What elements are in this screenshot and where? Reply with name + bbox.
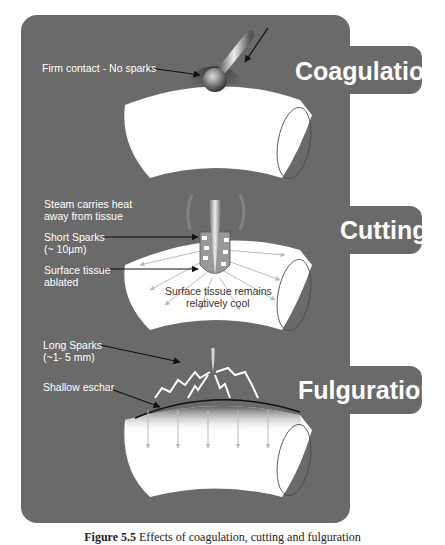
firm-contact-label: Firm contact - No sparks (42, 62, 156, 74)
cool-label-line1: Surface tissue remains (165, 285, 272, 297)
long-sparks-label: Long Sparks (43, 339, 102, 351)
caption-text: Effects of coagulation, cutting and fulg… (139, 530, 361, 544)
steam-label-line2: away from tissue (44, 210, 123, 222)
fulguration-title: Fulguration (298, 376, 435, 405)
cutting-tissue (100, 195, 316, 333)
figure-caption: Figure 5.5 Effects of coagulation, cutti… (0, 530, 445, 545)
short-sparks-size: (~ 10µm) (44, 243, 87, 255)
ablated-label-line2: ablated (44, 276, 78, 288)
caption-prefix: Figure 5.5 (84, 530, 136, 544)
ablated-label-line1: Surface tissue (44, 264, 111, 276)
shallow-eschar-label: Shallow eschar (43, 381, 114, 393)
cool-label-line2: relatively cool (186, 297, 250, 309)
coagulation-tissue (124, 28, 316, 181)
short-sparks-label: Short Sparks (44, 231, 105, 243)
long-sparks-size: (~1- 5 mm) (43, 351, 95, 363)
steam-label-line1: Steam carries heat (44, 198, 132, 210)
coagulation-title: Coagulation (295, 57, 439, 86)
fulguration-tissue (100, 345, 316, 498)
cutting-title: Cutting (340, 216, 427, 245)
